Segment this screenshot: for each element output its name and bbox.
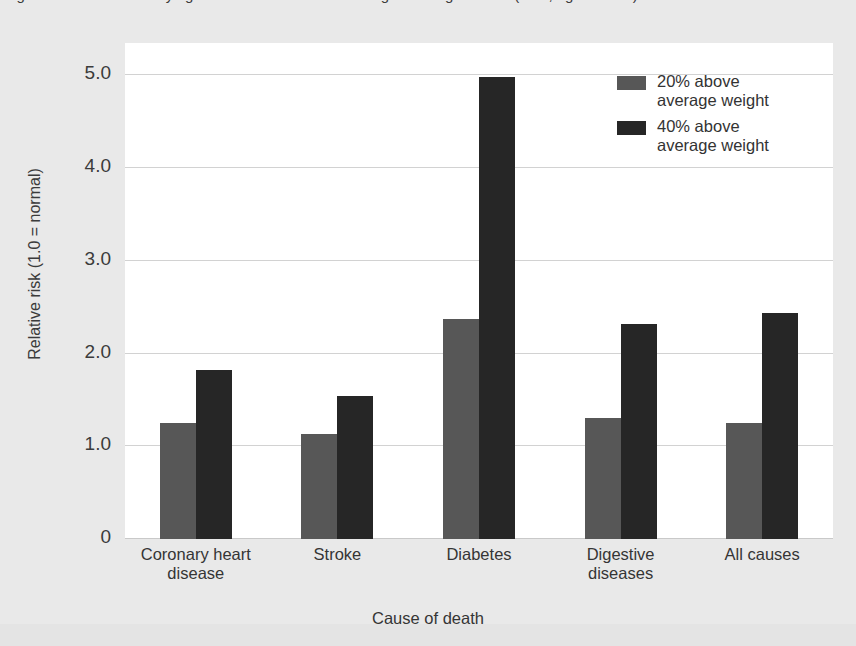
legend-item[interactable]: 40% above average weight: [617, 117, 832, 155]
bar[interactable]: [301, 434, 337, 539]
legend-item[interactable]: 20% above average weight: [617, 72, 832, 110]
x-axis-tick-label: All causes: [667, 545, 856, 564]
y-axis-tick-label: 3.0: [51, 248, 111, 270]
legend-label: 20% above average weight: [657, 72, 769, 110]
bar-group: [443, 43, 515, 539]
bar[interactable]: [585, 418, 621, 539]
bar[interactable]: [196, 370, 232, 539]
bar-group: [301, 43, 373, 539]
legend-swatch-icon: [617, 76, 646, 90]
bar-group: [160, 43, 232, 539]
bar[interactable]: [726, 423, 762, 539]
bar[interactable]: [443, 319, 479, 539]
bar[interactable]: [337, 396, 373, 539]
chart-legend: 20% above average weight40% above averag…: [617, 72, 832, 162]
legend-label: 40% above average weight: [657, 117, 769, 155]
bar[interactable]: [762, 313, 798, 539]
page-bottom-band: [0, 624, 856, 646]
y-axis-title: Relative risk (1.0 = normal): [26, 54, 44, 474]
bar-chart-figure: Relative risk (1.0 = normal) 01.02.03.04…: [0, 0, 856, 646]
bar[interactable]: [160, 423, 196, 539]
y-axis-tick-label: 4.0: [51, 155, 111, 177]
y-axis-tick-label: 5.0: [51, 62, 111, 84]
y-axis-tick-label: 1.0: [51, 433, 111, 455]
y-axis-tick-label: 2.0: [51, 341, 111, 363]
bar[interactable]: [621, 324, 657, 539]
legend-swatch-icon: [617, 121, 646, 135]
bar[interactable]: [479, 77, 515, 539]
